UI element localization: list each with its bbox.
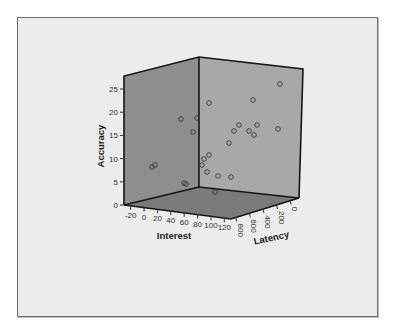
interest-tick-label: 40	[166, 216, 175, 225]
interest-tick-label: -20	[125, 211, 137, 220]
chart-frame: 0510152025 -20020406080100120 8006004002…	[17, 17, 378, 317]
latency-tick-label: 400	[263, 215, 272, 229]
accuracy-tick-label: 20	[109, 108, 118, 117]
y-axis-title: Accuracy	[95, 124, 106, 167]
accuracy-tick-label: 25	[109, 85, 118, 94]
accuracy-tick-label: 5	[114, 178, 119, 187]
accuracy-tick-label: 0	[114, 201, 119, 210]
accuracy-tick-label: 15	[109, 131, 118, 140]
interest-tick-label: 100	[204, 221, 218, 230]
back-right-wall	[199, 57, 303, 198]
interest-tick-label: 120	[218, 223, 232, 232]
accuracy-tick-label: 10	[109, 155, 118, 164]
interest-tick-label: 20	[153, 214, 162, 223]
interest-tick-label: 60	[180, 218, 189, 227]
latency-tick-label: 800	[236, 224, 245, 238]
x-axis-title: Interest	[157, 230, 192, 241]
interest-tick-label: 80	[193, 220, 202, 229]
interest-tick-label: 0	[142, 213, 147, 222]
scatter-3d-plot: 0510152025 -20020406080100120 8006004002…	[18, 18, 377, 316]
latency-tick-label: 200	[277, 211, 286, 225]
latency-tick-label: 0	[290, 207, 299, 212]
accuracy-axis: 0510152025	[109, 85, 124, 210]
latency-tick-label: 600	[249, 219, 258, 233]
